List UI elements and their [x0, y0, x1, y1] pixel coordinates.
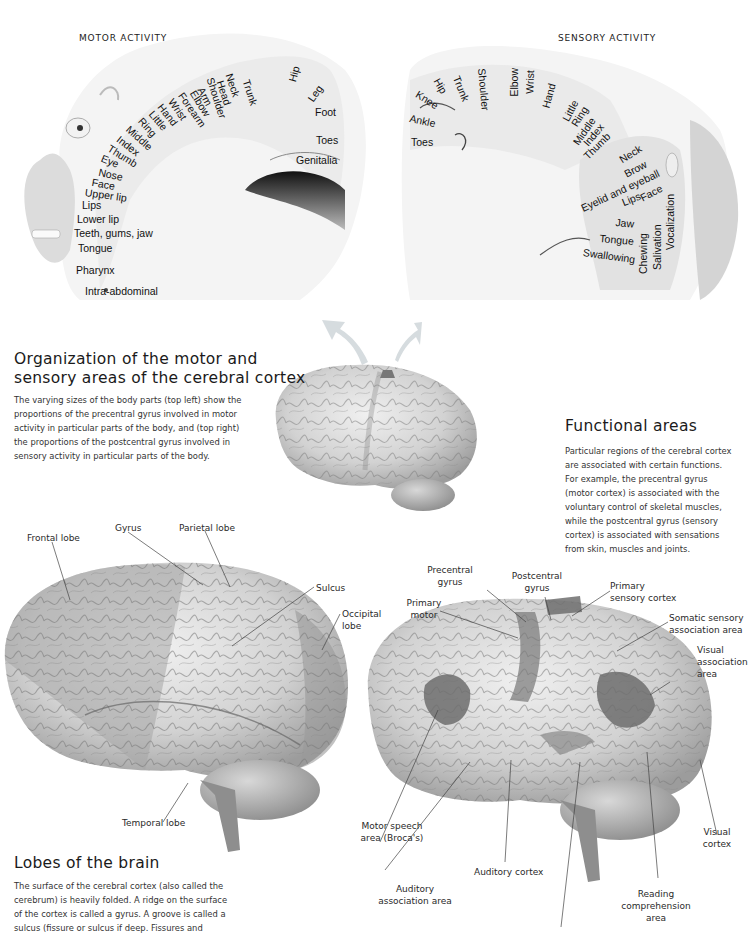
motor-label: Genitalia — [296, 154, 337, 166]
middle-brain-illustration — [276, 365, 477, 511]
functional-areas-title: Functional areas — [565, 416, 697, 436]
label-reading-comprehension-area: Reading comprehension area — [616, 888, 696, 924]
label-gyrus: Gyrus — [115, 522, 141, 534]
organization-title-line2: sensory areas of the cerebral cortex — [14, 368, 306, 388]
motor-label: Tongue — [78, 242, 112, 254]
motor-label: Teeth, gums, jaw — [74, 227, 153, 239]
lobes-body: The surface of the cerebral cortex (also… — [14, 879, 227, 935]
organization-body: The varying sizes of the body parts (top… — [14, 393, 242, 463]
label-somatic-sensory-association-area: Somatic sensory association area — [669, 612, 744, 636]
lobes-title: Lobes of the brain — [14, 853, 160, 873]
sensory-label: Vocalization — [664, 194, 676, 250]
label-frontal-lobe: Frontal lobe — [27, 532, 80, 544]
sensory-label: Jaw — [615, 216, 635, 230]
label-motor-speech-area: Motor speech area (Broca's) — [352, 820, 432, 844]
label-primary-motor: Primary motor — [399, 597, 449, 621]
label-precentral-gyrus: Precentral gyrus — [424, 564, 476, 588]
sensory-label: Salivation — [651, 224, 663, 270]
label-sulcus: Sulcus — [316, 582, 345, 594]
motor-label: Intra-abdominal — [85, 285, 158, 297]
motor-label: Lower lip — [77, 213, 119, 225]
label-visual-cortex: Visual cortex — [697, 826, 737, 850]
motor-homunculus-illustration — [24, 34, 366, 300]
sensory-label: Elbow — [508, 68, 520, 97]
label-postcentral-gyrus: Postcentral gyrus — [509, 570, 565, 594]
sensory-label: Toes — [411, 136, 433, 148]
label-primary-sensory-cortex: Primary sensory cortex — [610, 580, 676, 604]
label-visual-association-area: Visual association area — [697, 644, 748, 680]
motor-label: Foot — [315, 106, 336, 118]
motor-label: Lips — [82, 199, 101, 211]
label-parietal-lobe: Parietal lobe — [179, 522, 235, 534]
sensory-label: Chewing — [637, 233, 649, 274]
label-auditory-cortex: Auditory cortex — [474, 866, 543, 878]
label-auditory-association-area: Auditory association area — [370, 883, 460, 907]
motor-label: Toes — [316, 134, 338, 146]
organization-title-line1: Organization of the motor and — [14, 349, 258, 369]
label-occipital-lobe: Occipital lobe — [342, 608, 381, 632]
sensory-activity-heading: SENSORY ACTIVITY — [558, 33, 656, 43]
label-temporal-lobe: Temporal lobe — [122, 817, 185, 829]
motor-label: Pharynx — [76, 264, 115, 276]
motor-activity-heading: MOTOR ACTIVITY — [79, 33, 167, 43]
arrows-graphic — [322, 320, 422, 365]
lobes-brain-illustration — [5, 562, 348, 852]
functional-areas-body: Particular regions of the cerebral corte… — [565, 444, 731, 556]
sensory-label: Wrist — [523, 70, 536, 94]
